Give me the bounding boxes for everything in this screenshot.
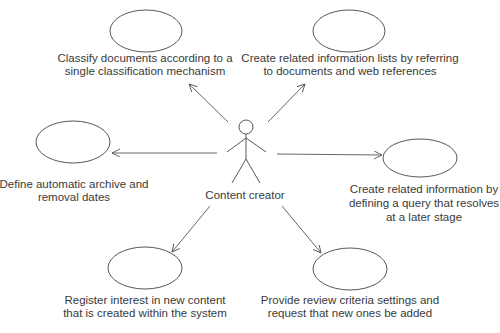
- actor-left-arm: [227, 138, 246, 152]
- use-case-label: Provide review criteria settings and: [261, 294, 439, 306]
- use-case-related-lists: Create related information lists by refe…: [241, 10, 458, 77]
- use-case-label: at a later stage: [386, 211, 462, 223]
- actor-head-icon: [239, 120, 253, 134]
- association-arrow-review-criteria: [282, 206, 321, 253]
- use-case-archive-dates: Define automatic archive andremoval date…: [0, 121, 148, 203]
- use-case-review-criteria: Provide review criteria settings andrequ…: [261, 248, 439, 319]
- use-case-ellipse: [108, 247, 182, 289]
- use-case-label: removal dates: [38, 191, 110, 203]
- use-case-label: Define automatic archive and: [0, 178, 148, 190]
- use-case-diagram: Content creator Classify documents accor…: [0, 0, 500, 333]
- associations: [112, 84, 382, 253]
- use-case-label: request that new ones be added: [268, 307, 432, 319]
- association-arrow-register-interest: [172, 206, 210, 252]
- use-case-ellipse: [313, 10, 385, 52]
- use-case-label: that is created within the system: [63, 307, 227, 319]
- actor-content-creator: Content creator: [205, 120, 284, 201]
- use-case-ellipse: [313, 248, 387, 290]
- use-case-label: Classify documents according to a: [57, 52, 233, 64]
- use-case-classify: Classify documents according to asingle …: [57, 10, 233, 77]
- use-case-label: Register interest in new content: [64, 294, 226, 306]
- actor-left-leg: [232, 159, 246, 183]
- use-case-label: Create related information by: [350, 183, 499, 195]
- association-arrow-related-query: [277, 154, 382, 155]
- use-case-label: defining a query that resolves: [349, 197, 499, 209]
- use-case-label: single classification mechanism: [65, 65, 225, 77]
- actor-right-leg: [246, 159, 260, 183]
- association-arrow-classify: [189, 84, 228, 122]
- use-case-label: Create related information lists by refe…: [241, 52, 458, 64]
- use-case-register-interest: Register interest in new contentthat is …: [63, 247, 227, 319]
- association-arrow-related-lists: [268, 84, 305, 122]
- use-case-ellipse: [110, 10, 182, 52]
- use-case-related-query: Create related information bydefining a …: [349, 139, 499, 223]
- use-case-ellipse: [36, 121, 110, 163]
- actor-label: Content creator: [205, 189, 284, 201]
- use-case-label: to documents and web references: [263, 65, 436, 77]
- actor-right-arm: [246, 138, 266, 152]
- use-case-ellipse: [383, 139, 457, 177]
